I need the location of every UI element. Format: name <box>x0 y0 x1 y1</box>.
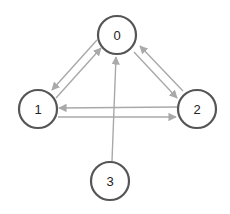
node-label: 2 <box>193 102 200 117</box>
node-3: 3 <box>91 162 129 200</box>
node-0: 0 <box>98 16 136 54</box>
edge-1-to-0-arrow <box>56 48 101 98</box>
node-1: 1 <box>19 90 57 128</box>
node-2: 2 <box>178 90 216 128</box>
node-label: 0 <box>113 28 120 43</box>
node-label: 3 <box>106 174 113 189</box>
edges-group <box>52 40 183 161</box>
node-label: 1 <box>34 102 41 117</box>
edge-0-to-2-arrow <box>134 52 177 98</box>
graph-diagram: 0123 <box>0 0 230 214</box>
edge-2-to-0-arrow <box>140 46 183 91</box>
edge-2-to-1-arrow <box>59 107 177 108</box>
edge-0-to-1-arrow <box>52 40 97 90</box>
edge-3-to-0-arrow <box>112 57 116 161</box>
